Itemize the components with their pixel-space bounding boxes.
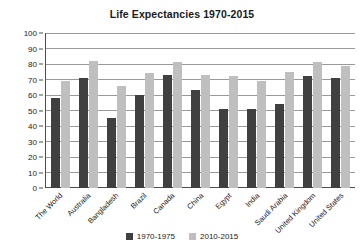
bar bbox=[219, 109, 228, 188]
bar-group bbox=[74, 33, 102, 188]
x-axis-tick-label-text: Egypt bbox=[213, 191, 233, 211]
x-axis-labels: The WorldAustraliaBangladeshBrazilCanada… bbox=[46, 189, 355, 233]
bar bbox=[285, 72, 294, 188]
x-axis-tick: Bangladesh bbox=[102, 189, 130, 233]
bar bbox=[191, 90, 200, 188]
y-axis-tick-label: 10 bbox=[28, 168, 37, 177]
y-axis-tick-label: 30 bbox=[28, 137, 37, 146]
x-axis-tick: China bbox=[186, 189, 214, 233]
legend-swatch bbox=[189, 233, 196, 240]
legend-label: 1970-1975 bbox=[137, 232, 175, 241]
y-axis-tick-mark bbox=[39, 64, 43, 65]
bar-group bbox=[186, 33, 214, 188]
bar bbox=[229, 76, 238, 188]
bar-group bbox=[243, 33, 271, 188]
y-axis-tick-mark bbox=[39, 110, 43, 111]
bar bbox=[117, 86, 126, 188]
y-axis-tick-mark bbox=[39, 79, 43, 80]
y-axis-tick-label: 20 bbox=[28, 153, 37, 162]
y-axis-tick-label: 50 bbox=[28, 106, 37, 115]
bar-group bbox=[158, 33, 186, 188]
bar bbox=[173, 62, 182, 188]
chart-title: Life Expectancies 1970-2015 bbox=[0, 8, 364, 20]
bar bbox=[89, 61, 98, 188]
bar bbox=[61, 81, 70, 188]
life-expectancy-bar-chart: Life Expectancies 1970-2015 010203040506… bbox=[0, 0, 364, 249]
y-axis-tick-mark bbox=[39, 157, 43, 158]
bar-group bbox=[102, 33, 130, 188]
bar-group bbox=[271, 33, 299, 188]
bar bbox=[257, 81, 266, 188]
y-axis-tick-label: 70 bbox=[28, 75, 37, 84]
legend-label: 2010-2015 bbox=[200, 232, 238, 241]
x-axis-tick-label-text: Brazil bbox=[129, 191, 149, 211]
y-axis-tick-label: 0 bbox=[33, 184, 37, 193]
legend-swatch bbox=[126, 233, 133, 240]
y-axis-tick-label: 40 bbox=[28, 122, 37, 131]
y-axis-tick-label: 90 bbox=[28, 44, 37, 53]
x-axis-tick-label-text: The World bbox=[34, 191, 65, 222]
legend-item: 1970-1975 bbox=[126, 232, 175, 241]
y-axis: 0102030405060708090100 bbox=[0, 33, 43, 188]
y-axis-tick-mark bbox=[39, 48, 43, 49]
bar bbox=[201, 75, 210, 188]
y-axis-tick-mark bbox=[39, 141, 43, 142]
chart-legend: 1970-19752010-2015 bbox=[0, 232, 364, 241]
x-axis-tick-label-text: India bbox=[243, 191, 261, 209]
x-axis-tick: Egypt bbox=[215, 189, 243, 233]
x-axis-tick-label-text: China bbox=[185, 191, 205, 211]
y-axis-tick-label: 100 bbox=[24, 29, 37, 38]
bar bbox=[247, 109, 256, 188]
bar-group bbox=[46, 33, 74, 188]
legend-item: 2010-2015 bbox=[189, 232, 238, 241]
y-axis-tick-mark bbox=[39, 172, 43, 173]
y-axis-tick-mark bbox=[39, 95, 43, 96]
y-axis-tick-mark bbox=[39, 188, 43, 189]
bar bbox=[51, 98, 60, 188]
bar-group bbox=[215, 33, 243, 188]
y-axis-tick-mark bbox=[39, 126, 43, 127]
y-axis-tick-label: 80 bbox=[28, 60, 37, 69]
bar bbox=[163, 75, 172, 188]
bar bbox=[275, 104, 284, 188]
x-axis-tick: Canada bbox=[158, 189, 186, 233]
x-axis-tick: United States bbox=[327, 189, 355, 233]
y-axis-tick-mark bbox=[39, 33, 43, 34]
y-axis-tick-label: 60 bbox=[28, 91, 37, 100]
